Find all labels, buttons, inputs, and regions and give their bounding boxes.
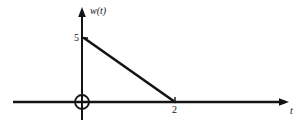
plot-canvas — [0, 0, 300, 125]
y-axis-label: w(t) — [90, 6, 106, 16]
y-axis-arrowhead — [78, 7, 86, 17]
figure-root: w(t) t 5 2 — [0, 0, 300, 125]
waveform-ramp — [84, 38, 175, 102]
x-tick-label-2: 2 — [172, 105, 177, 115]
x-axis-arrowhead — [279, 98, 289, 106]
x-axis-label: t — [290, 106, 293, 116]
y-tick-label-5: 5 — [74, 33, 79, 43]
